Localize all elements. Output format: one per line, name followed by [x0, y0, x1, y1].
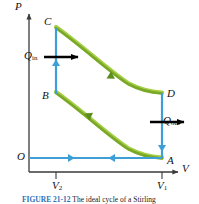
origin-label: O — [17, 151, 25, 162]
tick-label-v1-sub: 1 — [164, 184, 168, 192]
pv-diagram-figure: P V O V2 V1 C B D A Qin Qout FIGURE 21-1… — [0, 0, 199, 204]
q-in-subscript: in — [32, 54, 37, 62]
q-in-symbol: Q — [24, 49, 32, 61]
axis-group — [29, 14, 178, 179]
point-label-d: D — [167, 88, 175, 99]
figure-caption-text: The ideal cycle of a Stirling — [72, 195, 156, 204]
q-in-label: Qin — [24, 50, 37, 62]
arrow-d-to-a — [158, 145, 166, 152]
tick-label-v2-text: V — [52, 179, 59, 191]
isotherm-curves — [56, 27, 162, 159]
q-out-label: Qout — [163, 115, 180, 127]
point-label-c: C — [44, 16, 51, 27]
isotherm-direction-arrows — [85, 71, 115, 120]
figure-caption-number: FIGURE 21-12 — [22, 195, 71, 204]
x-axis-label: V — [182, 163, 189, 174]
arrow-baseline-left — [108, 154, 115, 162]
isotherm-upper-edge — [56, 27, 162, 93]
point-label-a: A — [167, 155, 174, 166]
figure-caption: FIGURE 21-12 The ideal cycle of a Stirli… — [22, 195, 194, 204]
tick-label-v1-text: V — [157, 179, 164, 191]
arrow-b-to-c — [52, 59, 60, 66]
y-axis-label: P — [15, 1, 22, 12]
q-out-symbol: Q — [163, 114, 171, 126]
tick-label-v2: V2 — [52, 180, 62, 192]
tick-label-v2-sub: 2 — [59, 184, 63, 192]
point-label-b: B — [42, 90, 49, 101]
isotherm-lower-edge — [56, 92, 162, 158]
q-out-subscript: out — [171, 119, 180, 127]
tick-label-v1: V1 — [157, 180, 167, 192]
pv-diagram-canvas — [0, 0, 199, 204]
arrow-a-to-b — [85, 109, 96, 120]
arrow-baseline-right — [68, 154, 75, 162]
